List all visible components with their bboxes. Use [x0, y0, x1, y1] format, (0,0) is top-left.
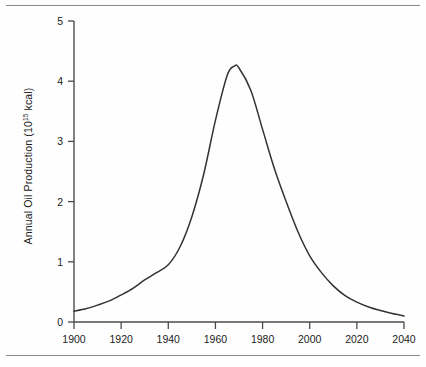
top-rule [6, 5, 420, 6]
y-tick-label: 5 [57, 15, 63, 27]
x-tick-label: 1900 [62, 333, 86, 345]
x-tick-label: 1960 [204, 333, 228, 345]
x-tick-label: 1940 [157, 333, 181, 345]
y-tick-label: 0 [57, 316, 63, 328]
axes [74, 21, 404, 322]
bottom-rule [6, 355, 420, 356]
data-series-line [74, 65, 404, 316]
x-tick-label: 2000 [298, 333, 322, 345]
x-tick-group: 19001920194019601980200020202040 [62, 322, 416, 345]
x-tick-label: 2040 [392, 333, 416, 345]
y-tick-label: 2 [57, 196, 63, 208]
chart-figure: Annual Oil Production (1015 kcal) 012345… [0, 8, 426, 352]
x-tick-label: 1920 [109, 333, 133, 345]
y-tick-group: 012345 [57, 15, 74, 328]
y-tick-label: 4 [57, 75, 63, 87]
figure-page: Annual Oil Production (1015 kcal) 012345… [0, 0, 426, 367]
chart-plot: 012345 19001920194019601980200020202040 [0, 8, 426, 352]
x-tick-label: 2020 [345, 333, 369, 345]
x-tick-label: 1980 [251, 333, 275, 345]
y-tick-label: 3 [57, 135, 63, 147]
y-tick-label: 1 [57, 256, 63, 268]
